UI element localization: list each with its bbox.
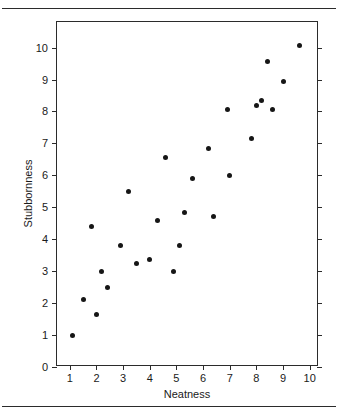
- x-axis-tick-label: 6: [200, 373, 206, 384]
- x-axis-tick: [256, 365, 257, 370]
- y-axis-tick: [52, 111, 57, 112]
- data-point: [254, 103, 259, 108]
- bottom-horizontal-rule: [2, 406, 336, 407]
- x-axis-tick-label: 2: [93, 373, 99, 384]
- data-point: [105, 285, 110, 290]
- y-axis-title: Stubbornness: [22, 21, 34, 366]
- y-axis-tick-label: 10: [36, 42, 48, 53]
- x-axis-tick-label: 1: [67, 373, 73, 384]
- data-point: [297, 43, 302, 48]
- data-point: [190, 176, 195, 181]
- data-point: [94, 312, 99, 317]
- y-axis-tick-label: 7: [42, 138, 48, 149]
- plot-frame: 012345678910 12345678910: [56, 21, 318, 366]
- x-axis-tick-label: 3: [120, 373, 126, 384]
- data-point: [270, 107, 275, 112]
- data-point: [177, 243, 182, 248]
- y-axis-tick-label: 9: [42, 74, 48, 85]
- y-axis-tick: [52, 335, 57, 336]
- x-axis-tick-label: 10: [304, 373, 316, 384]
- top-horizontal-rule: [2, 8, 336, 9]
- data-point: [99, 269, 104, 274]
- y-axis-tick: [52, 48, 57, 49]
- x-axis-tick: [150, 365, 151, 370]
- data-point: [155, 218, 160, 223]
- plot-data-area: [57, 22, 317, 365]
- data-point: [211, 214, 216, 219]
- x-axis-tick-label: 5: [173, 373, 179, 384]
- x-axis-tick-label: 9: [280, 373, 286, 384]
- y-axis-tick-right: [317, 271, 322, 272]
- scatter-plot-figure: 012345678910 12345678910 Neatness Stubbo…: [0, 0, 338, 415]
- data-point: [206, 146, 211, 151]
- x-axis-tick: [230, 365, 231, 370]
- y-axis-tick: [52, 175, 57, 176]
- y-axis-tick: [52, 143, 57, 144]
- data-point: [163, 155, 168, 160]
- data-point: [81, 297, 86, 302]
- x-axis-tick-label: 7: [227, 373, 233, 384]
- y-axis-tick-label: 4: [42, 234, 48, 245]
- data-point: [147, 257, 152, 262]
- x-axis-tick-label: 8: [253, 373, 259, 384]
- y-axis-tick-right: [317, 48, 322, 49]
- x-axis-tick: [203, 365, 204, 370]
- data-point: [225, 107, 230, 112]
- data-point: [171, 269, 176, 274]
- y-axis-tick-right: [317, 239, 322, 240]
- data-point: [70, 333, 75, 338]
- x-axis-title: Neatness: [56, 388, 318, 400]
- x-axis-tick: [176, 365, 177, 370]
- data-point: [227, 173, 232, 178]
- y-axis-tick-right: [317, 175, 322, 176]
- y-axis-tick-label: 5: [42, 202, 48, 213]
- y-axis-tick-right: [317, 335, 322, 336]
- y-axis-tick-label: 2: [42, 298, 48, 309]
- x-axis-tick: [123, 365, 124, 370]
- data-point: [126, 189, 131, 194]
- y-axis-tick-label: 0: [42, 362, 48, 373]
- y-axis-tick: [52, 271, 57, 272]
- data-point: [89, 224, 94, 229]
- y-axis-tick-right: [317, 111, 322, 112]
- y-axis-tick: [52, 367, 57, 368]
- data-point: [134, 261, 139, 266]
- y-axis-tick: [52, 239, 57, 240]
- y-axis-tick-label: 1: [42, 330, 48, 341]
- x-axis-tick-label: 4: [147, 373, 153, 384]
- data-point: [281, 79, 286, 84]
- y-axis-tick-label: 3: [42, 266, 48, 277]
- data-point: [182, 210, 187, 215]
- y-axis-tick-label: 6: [42, 170, 48, 181]
- y-axis-tick-right: [317, 367, 322, 368]
- data-point: [249, 136, 254, 141]
- y-axis-tick: [52, 303, 57, 304]
- data-point: [118, 243, 123, 248]
- x-axis-tick: [70, 365, 71, 370]
- y-axis-tick: [52, 80, 57, 81]
- y-axis-tick-right: [317, 207, 322, 208]
- y-axis-tick-right: [317, 143, 322, 144]
- x-axis-tick: [96, 365, 97, 370]
- data-point: [259, 98, 264, 103]
- x-axis-tick: [283, 365, 284, 370]
- y-axis-tick-right: [317, 303, 322, 304]
- data-point: [265, 59, 270, 64]
- y-axis-tick-right: [317, 80, 322, 81]
- y-axis-tick-label: 8: [42, 106, 48, 117]
- x-axis-tick: [310, 365, 311, 370]
- y-axis-tick: [52, 207, 57, 208]
